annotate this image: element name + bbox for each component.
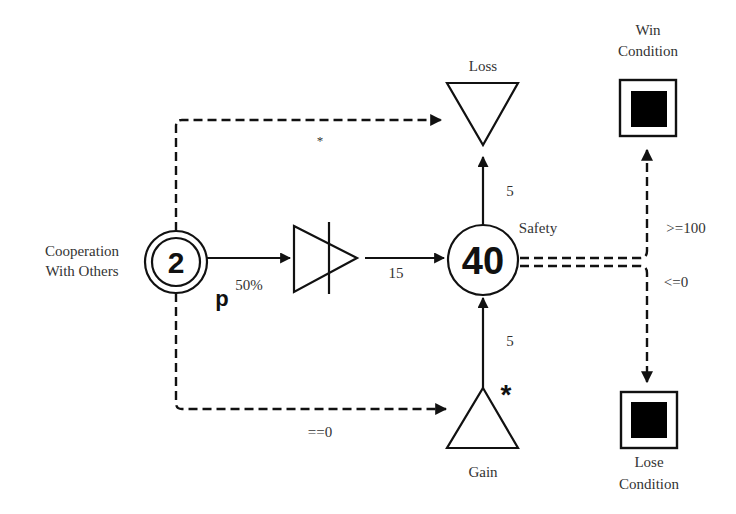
edge-label-gte100: >=100 [666, 220, 705, 236]
lose-label-line1: Lose [634, 454, 664, 470]
end-condition-fill [631, 91, 667, 127]
cooperation-label-line2: With Others [45, 263, 118, 279]
end-condition-fill [631, 402, 667, 438]
trigger-marker: * [501, 379, 512, 410]
edge-safety-to-lose[interactable] [520, 266, 647, 382]
edge-safety-to-win[interactable] [520, 150, 647, 258]
cooperation-label-line1: Cooperation [45, 243, 120, 259]
converter-triangle-icon [294, 226, 357, 292]
edge-label-eq0: ==0 [308, 424, 332, 440]
pull-mode-marker: p [215, 286, 228, 311]
edge-label-lte0: <=0 [664, 274, 688, 290]
win-label-line1: Win [635, 22, 661, 38]
edge-label-50pct: 50% [235, 277, 263, 293]
edge-coop-to-loss[interactable] [176, 120, 441, 231]
cooperation-pool-node[interactable]: 2 p [145, 231, 229, 311]
win-condition-node[interactable] [620, 80, 676, 136]
machinations-diagram: 2 p Cooperation With Others 50% 15 40 Sa… [0, 0, 736, 514]
edge-label-gain-5: 5 [506, 333, 514, 349]
win-label-line2: Condition [618, 43, 679, 59]
safety-pool-node[interactable]: 40 [448, 225, 518, 295]
gain-label: Gain [468, 464, 498, 480]
converter-gate-node[interactable] [294, 222, 357, 294]
loss-drain-node[interactable] [447, 83, 518, 145]
edge-label-loss-5: 5 [506, 183, 514, 199]
edge-label-15: 15 [389, 265, 404, 281]
loss-label: Loss [469, 58, 498, 74]
safety-value: 40 [462, 240, 504, 282]
cooperation-value: 2 [168, 246, 185, 279]
lose-condition-node[interactable] [621, 392, 677, 448]
drain-triangle-icon [447, 83, 518, 145]
safety-label: Safety [519, 220, 558, 236]
gain-source-node[interactable]: * [447, 379, 518, 448]
lose-label-line2: Condition [619, 476, 680, 492]
edge-label-star: * [317, 133, 324, 148]
